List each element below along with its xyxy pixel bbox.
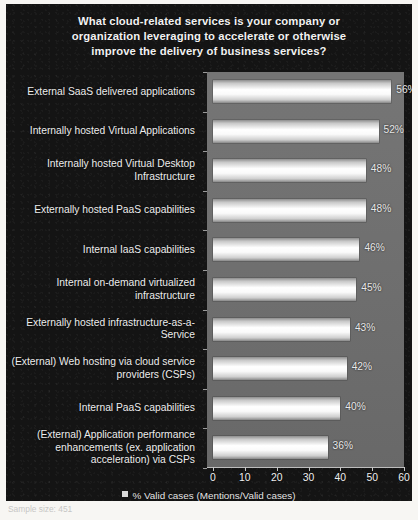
bar[interactable] xyxy=(213,120,379,143)
category-label-line: Internally hosted Virtual Desktop xyxy=(9,158,195,171)
category-label: Internal on-demand virtualizedinfrastruc… xyxy=(9,277,195,302)
x-axis-tick xyxy=(277,467,278,471)
table-row[interactable]: 40% xyxy=(213,389,404,429)
y-axis-tick xyxy=(203,310,207,311)
category-label: (External) Application performanceenhanc… xyxy=(9,429,195,467)
x-axis-tick-label: 30 xyxy=(303,472,315,483)
bar-value-label: 42% xyxy=(352,361,372,372)
bar-value-label: 48% xyxy=(371,163,391,174)
category-label-line: Internal on-demand virtualized xyxy=(9,277,195,290)
x-axis-tick-label: 60 xyxy=(398,472,410,483)
legend-label: % Valid cases (Mentions/Valid cases) xyxy=(132,490,295,501)
bar[interactable] xyxy=(213,159,366,182)
y-axis-tick xyxy=(203,389,207,390)
category-label: Internal IaaS capabilities xyxy=(9,244,195,257)
category-label: Externally hosted infrastructure-as-a-Se… xyxy=(9,317,195,342)
bar-rows: 56%52%48%48%46%45%43%42%40%36% xyxy=(213,72,404,468)
bar[interactable] xyxy=(213,397,340,420)
bar-value-label: 52% xyxy=(384,124,404,135)
category-label: Internally hosted Virtual Applications xyxy=(9,125,195,138)
y-axis-tick xyxy=(203,468,207,469)
y-axis-tick xyxy=(203,151,207,152)
category-label: External SaaS delivered applications xyxy=(9,86,195,99)
chart-title-line: What cloud-related services is your comp… xyxy=(30,14,388,29)
y-axis-tick xyxy=(203,191,207,192)
chart-panel: What cloud-related services is your comp… xyxy=(6,4,412,501)
y-axis-tick xyxy=(203,270,207,271)
y-axis-tick xyxy=(203,230,207,231)
category-label: Externally hosted PaaS capabilities xyxy=(9,204,195,217)
chart-title: What cloud-related services is your comp… xyxy=(30,14,388,60)
category-label-line: External SaaS delivered applications xyxy=(9,86,195,99)
chart-title-line: organization leveraging to accelerate or… xyxy=(30,29,388,44)
x-axis-tick-label: 50 xyxy=(366,472,378,483)
bar-value-label: 36% xyxy=(333,440,353,451)
y-axis-tick xyxy=(203,349,207,350)
y-axis-tick xyxy=(203,112,207,113)
footer-caption: Sample size: 451 xyxy=(8,503,258,517)
x-axis-tick xyxy=(213,467,214,471)
bar-value-label: 46% xyxy=(364,242,384,253)
x-axis-tick-label: 20 xyxy=(271,472,283,483)
table-row[interactable]: 36% xyxy=(213,428,404,468)
category-label: Internal PaaS capabilities xyxy=(9,402,195,415)
chart-title-line: improve the delivery of business service… xyxy=(30,44,388,59)
bar-value-label: 56% xyxy=(396,84,412,95)
table-row[interactable]: 48% xyxy=(213,151,404,191)
x-axis-tick xyxy=(404,467,405,471)
x-axis-tick xyxy=(340,467,341,471)
category-label-line: acceleration) via CSPs xyxy=(9,454,195,467)
bar-value-label: 45% xyxy=(361,282,381,293)
x-axis-tick-label: 40 xyxy=(335,472,347,483)
y-axis-tick xyxy=(203,428,207,429)
category-label: (External) Web hosting via cloud service… xyxy=(9,356,195,381)
table-row[interactable]: 52% xyxy=(213,112,404,152)
bar-value-label: 40% xyxy=(345,401,365,412)
bar-value-label: 43% xyxy=(355,322,375,333)
bar[interactable] xyxy=(213,80,391,103)
bar[interactable] xyxy=(213,436,328,459)
category-label: Internally hosted Virtual DesktopInfrast… xyxy=(9,158,195,183)
bar[interactable] xyxy=(213,318,350,341)
bar[interactable] xyxy=(213,357,347,380)
table-row[interactable]: 42% xyxy=(213,349,404,389)
bar[interactable] xyxy=(213,238,359,261)
chart-legend: % Valid cases (Mentions/Valid cases) xyxy=(6,489,412,501)
plot-area: 56%52%48%48%46%45%43%42%40%36% xyxy=(207,72,404,468)
table-row[interactable]: 56% xyxy=(213,72,404,112)
table-row[interactable]: 43% xyxy=(213,310,404,350)
category-label-line: infrastructure xyxy=(9,290,195,303)
x-axis-tick-label: 0 xyxy=(210,472,216,483)
y-axis-tick xyxy=(203,72,207,73)
x-axis-line xyxy=(207,467,404,468)
x-axis-tick xyxy=(372,467,373,471)
category-axis-labels: External SaaS delivered applicationsInte… xyxy=(6,72,205,468)
table-row[interactable]: 48% xyxy=(213,191,404,231)
category-label-line: providers (CSPs) xyxy=(9,369,195,382)
category-label-line: enhancements (ex. application xyxy=(9,442,195,455)
category-label-line: Internal PaaS capabilities xyxy=(9,402,195,415)
category-label-line: Internally hosted Virtual Applications xyxy=(9,125,195,138)
chart-screenshot: What cloud-related services is your comp… xyxy=(0,0,418,520)
x-axis-tick xyxy=(245,467,246,471)
category-label-line: (External) Application performance xyxy=(9,429,195,442)
table-row[interactable]: 45% xyxy=(213,270,404,310)
table-row[interactable]: 46% xyxy=(213,230,404,270)
legend-swatch-icon xyxy=(122,491,128,497)
category-label-line: Internal IaaS capabilities xyxy=(9,244,195,257)
category-label-line: Infrastructure xyxy=(9,171,195,184)
category-label-line: (External) Web hosting via cloud service xyxy=(9,356,195,369)
x-axis-tick-label: 10 xyxy=(239,472,251,483)
category-label-line: Externally hosted infrastructure-as-a- xyxy=(9,317,195,330)
category-label-line: Service xyxy=(9,329,195,342)
bar-value-label: 48% xyxy=(371,203,391,214)
bar[interactable] xyxy=(213,199,366,222)
bar[interactable] xyxy=(213,278,356,301)
x-axis-tick xyxy=(309,467,310,471)
category-label-line: Externally hosted PaaS capabilities xyxy=(9,204,195,217)
